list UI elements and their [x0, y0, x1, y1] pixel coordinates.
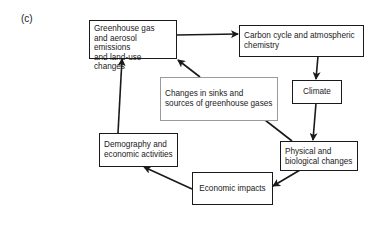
- node-physical: Physical and biological changes: [280, 141, 358, 171]
- edge-sinks-emissions: [178, 60, 200, 77]
- node-text: sources of greenhouse gases: [165, 99, 273, 109]
- node-text: Changes in sinks and: [165, 89, 273, 99]
- node-emissions: Greenhouse gas and aerosol emissions and…: [89, 20, 177, 59]
- node-economic: Economic impacts: [192, 172, 273, 205]
- edge-climate-physical: [313, 103, 316, 140]
- node-text: Physical and: [285, 147, 353, 157]
- node-text: Economic impacts: [199, 184, 265, 194]
- node-text: Climate: [303, 87, 331, 97]
- edge-physical-sinks: [265, 120, 292, 141]
- node-text: economic activities: [104, 150, 173, 160]
- node-carbon: Carbon cycle and atmospheric chemistry: [239, 25, 364, 57]
- node-text: and aerosol emissions: [94, 34, 172, 53]
- node-text: Demography and: [104, 140, 173, 150]
- edge-economic-demography: [144, 167, 192, 189]
- node-text: Greenhouse gas: [94, 24, 172, 34]
- node-text: biological changes: [285, 157, 353, 167]
- node-climate: Climate: [292, 80, 342, 104]
- edge-physical-economic: [273, 170, 300, 186]
- node-demography: Demography and economic activities: [99, 133, 178, 167]
- edge-carbon-climate: [316, 56, 318, 79]
- node-text: chemistry: [244, 41, 359, 51]
- node-sinks: Changes in sinks and sources of greenhou…: [160, 77, 278, 121]
- node-text: and land-use changes: [94, 53, 172, 72]
- edge-emissions-carbon: [176, 34, 238, 35]
- node-text: Carbon cycle and atmospheric: [244, 31, 359, 41]
